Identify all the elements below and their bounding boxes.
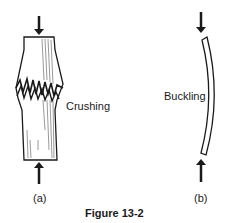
figure-caption: Figure 13-2 (85, 207, 144, 219)
annotation-crushing: Crushing (66, 100, 110, 112)
panel-label-b: (b) (194, 192, 207, 204)
load-arrow-up-icon (34, 162, 44, 184)
load-arrow-down-icon (34, 16, 44, 35)
panel-a-column (16, 16, 63, 184)
panel-label-a: (a) (33, 192, 46, 204)
figure-drawing (0, 0, 242, 223)
load-arrow-down-icon (196, 12, 206, 33)
load-arrow-up-icon (196, 159, 206, 182)
annotation-buckling: Buckling (164, 90, 206, 102)
